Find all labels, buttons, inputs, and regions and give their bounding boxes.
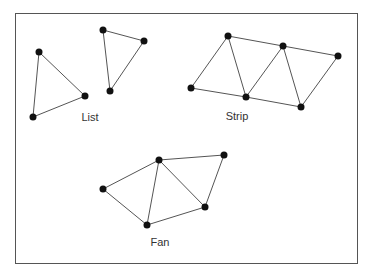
strip-edge bbox=[228, 36, 246, 97]
strip-vertex bbox=[335, 53, 342, 60]
list-vertex bbox=[141, 38, 148, 45]
list-vertex bbox=[30, 114, 37, 121]
strip-label: Strip bbox=[226, 110, 249, 122]
list-vertex bbox=[100, 27, 107, 34]
list-vertex bbox=[82, 93, 89, 100]
fan-vertex bbox=[144, 222, 151, 229]
fan-label: Fan bbox=[151, 236, 170, 248]
vertices-layer bbox=[30, 27, 342, 229]
strip-edge bbox=[283, 46, 338, 56]
list-edge bbox=[39, 52, 85, 96]
fan-edge bbox=[205, 155, 224, 207]
fan-edge bbox=[159, 155, 224, 160]
fan-vertex bbox=[100, 186, 107, 193]
edges-layer bbox=[33, 30, 338, 225]
fan-edge bbox=[103, 160, 159, 189]
list-edge bbox=[103, 30, 144, 41]
triangle-primitives-diagram bbox=[0, 0, 373, 276]
strip-vertex bbox=[188, 85, 195, 92]
strip-edge bbox=[191, 36, 228, 88]
list-label: List bbox=[81, 111, 98, 123]
fan-edge bbox=[147, 160, 159, 225]
list-vertex bbox=[107, 88, 114, 95]
fan-vertex bbox=[156, 157, 163, 164]
list-vertex bbox=[36, 49, 43, 56]
fan-edge bbox=[147, 207, 205, 225]
list-edge bbox=[110, 41, 144, 91]
strip-vertex bbox=[225, 33, 232, 40]
fan-vertex bbox=[202, 204, 209, 211]
fan-edge bbox=[159, 160, 205, 207]
strip-edge bbox=[228, 36, 283, 46]
strip-edge bbox=[283, 46, 301, 107]
fan-edge bbox=[103, 189, 147, 225]
fan-vertex bbox=[221, 152, 228, 159]
strip-vertex bbox=[298, 104, 305, 111]
list-edge bbox=[103, 30, 110, 91]
list-edge bbox=[33, 52, 39, 117]
strip-edge bbox=[246, 97, 301, 107]
strip-edge bbox=[246, 46, 283, 97]
strip-vertex bbox=[243, 94, 250, 101]
strip-edge bbox=[301, 56, 338, 107]
strip-vertex bbox=[280, 43, 287, 50]
list-edge bbox=[33, 96, 85, 117]
strip-edge bbox=[191, 88, 246, 97]
